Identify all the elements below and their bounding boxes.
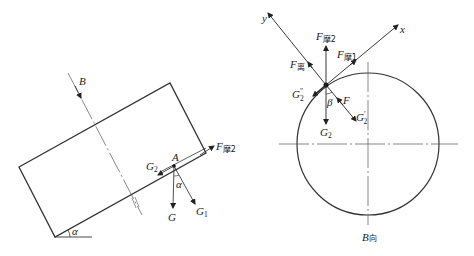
- g2-label: G2: [146, 160, 158, 174]
- g-arrow: [173, 166, 174, 208]
- g1-label: G1: [196, 205, 208, 219]
- mechanics-diagram: α B A F摩2 G2 G G1 α: [0, 0, 474, 256]
- b-label: B: [79, 75, 86, 87]
- friction1-label: F摩1: [336, 48, 357, 62]
- f-label: F: [342, 94, 350, 106]
- view-b-label: B向: [362, 231, 377, 243]
- g2-arrow: [158, 166, 174, 175]
- y-axis-label: y: [261, 12, 267, 24]
- alpha-inner-arc: [174, 175, 179, 176]
- a-label: A: [171, 151, 179, 163]
- centrifugal-label: F离: [289, 58, 305, 72]
- alpha-inner-label: α: [176, 178, 182, 190]
- friction2-arrow: [200, 146, 214, 155]
- right-diagram: B向 y x F摩2 F摩1 F离 G″2 G2: [261, 12, 458, 243]
- g2-down-label: G2: [320, 126, 332, 140]
- b-direction-arrow: [75, 86, 81, 98]
- left-diagram: α B A F摩2 G2 G G1 α: [19, 73, 236, 237]
- beta-label: β: [326, 96, 333, 108]
- g-label: G: [168, 211, 176, 223]
- alpha-base-arc: [68, 230, 70, 237]
- friction2-up-label: F摩2: [315, 30, 336, 44]
- edge-inner-line: [160, 148, 206, 172]
- alpha-base-label: α: [72, 225, 78, 237]
- centrifugal-arrow: [308, 62, 312, 68]
- y-axis: [268, 13, 326, 85]
- g2-double-prime-label: G″2: [292, 87, 304, 103]
- beta-arc: [326, 92, 332, 94]
- friction2-label: F摩2: [215, 140, 236, 154]
- g2-double-prime-arrow: [313, 85, 326, 96]
- x-axis-label: x: [399, 23, 405, 35]
- g2-prime-label: G′2: [356, 110, 368, 126]
